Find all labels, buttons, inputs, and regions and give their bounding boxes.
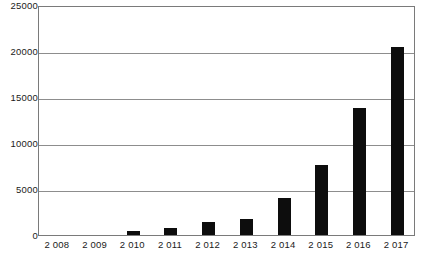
bar-slot [228, 7, 266, 235]
x-axis-tick-2011: 2 011 [151, 240, 189, 250]
y-axis-tick-0: 0 [0, 231, 38, 241]
bar-chart: 0500010000150002000025000 2 0082 0092 01… [0, 0, 421, 262]
y-axis-tick-25000: 25000 [0, 1, 38, 11]
bar-slot [39, 7, 77, 235]
bar-slot [114, 7, 152, 235]
x-axis-tick-2008: 2 008 [38, 240, 76, 250]
x-axis-tick-labels: 2 0082 0092 0102 0112 0122 0132 0142 015… [38, 240, 415, 258]
bar-slot [190, 7, 228, 235]
bar[interactable] [315, 165, 328, 235]
bar-slot [152, 7, 190, 235]
bar[interactable] [391, 47, 404, 235]
bar-slot [303, 7, 341, 235]
bar-slot [341, 7, 379, 235]
x-axis-tick-2016: 2 016 [340, 240, 378, 250]
plot-area [38, 6, 415, 236]
bar-slot [378, 7, 416, 235]
bar-slot [265, 7, 303, 235]
y-axis-tick-5000: 5000 [0, 185, 38, 195]
bar-slot [77, 7, 115, 235]
x-axis-tick-2014: 2 014 [264, 240, 302, 250]
bar[interactable] [164, 228, 177, 235]
x-axis-tick-2015: 2 015 [302, 240, 340, 250]
x-axis-tick-2017: 2 017 [377, 240, 415, 250]
x-axis-tick-2013: 2 013 [227, 240, 265, 250]
x-axis-tick-2010: 2 010 [113, 240, 151, 250]
bar[interactable] [127, 231, 140, 235]
y-axis-tick-15000: 15000 [0, 93, 38, 103]
y-axis-tick-20000: 20000 [0, 47, 38, 57]
y-axis-tick-10000: 10000 [0, 139, 38, 149]
x-axis-tick-2009: 2 009 [76, 240, 114, 250]
bars-layer [39, 7, 414, 235]
bar[interactable] [278, 198, 291, 235]
bar[interactable] [202, 222, 215, 235]
bar[interactable] [353, 108, 366, 235]
bar[interactable] [240, 219, 253, 235]
x-axis-tick-2012: 2 012 [189, 240, 227, 250]
